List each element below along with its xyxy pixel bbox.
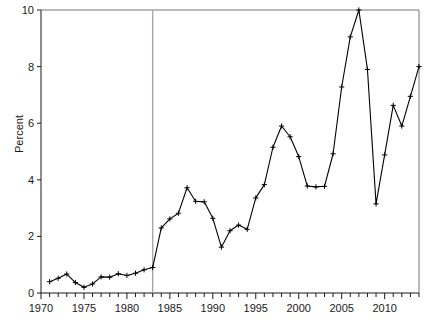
y-tick-label: 0 — [28, 287, 34, 299]
x-axis-ticks: 197019751980198519901995200020052010 — [29, 293, 419, 314]
y-tick-label: 8 — [28, 61, 34, 73]
x-tick-label: 2010 — [372, 302, 396, 314]
x-tick-label: 1995 — [244, 302, 268, 314]
y-tick-label: 6 — [28, 117, 34, 129]
line-chart: Percent 0246810 197019751980198519901995… — [0, 0, 435, 328]
x-tick-label: 1975 — [72, 302, 96, 314]
y-tick-label: 4 — [28, 174, 34, 186]
x-tick-label: 1980 — [115, 302, 139, 314]
x-tick-label: 1985 — [158, 302, 182, 314]
plot-area: 0246810 19701975198019851990199520002005… — [0, 0, 435, 328]
x-tick-label: 2005 — [329, 302, 353, 314]
x-tick-label: 1970 — [29, 302, 53, 314]
data-point-markers — [47, 7, 422, 290]
x-tick-label: 1990 — [201, 302, 225, 314]
y-tick-label: 2 — [28, 230, 34, 242]
y-axis-ticks: 0246810 — [22, 4, 41, 299]
data-series — [50, 10, 419, 287]
x-tick-label: 2000 — [286, 302, 310, 314]
y-tick-label: 10 — [22, 4, 34, 16]
plot-frame — [41, 10, 419, 293]
